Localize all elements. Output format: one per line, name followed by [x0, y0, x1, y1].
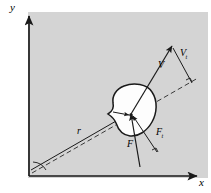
- body-center-point: [129, 113, 133, 117]
- force-component-subscript: t: [162, 132, 164, 139]
- physics-diagram: y x r V Vt F Ft: [0, 0, 211, 193]
- velocity-vector-label: V: [158, 60, 164, 70]
- x-axis-label: x: [199, 177, 204, 188]
- y-axis-label: y: [10, 2, 15, 13]
- velocity-component-label: Vt: [180, 48, 187, 60]
- force-vector-label: F: [127, 139, 133, 149]
- force-component-label: Ft: [156, 127, 163, 139]
- position-vector-label: r: [77, 126, 81, 136]
- velocity-component-subscript: t: [186, 53, 188, 60]
- diagram-canvas: [0, 0, 211, 193]
